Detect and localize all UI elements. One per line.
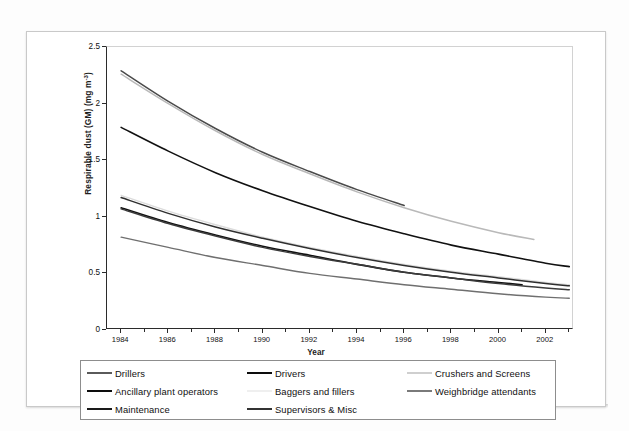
series-line xyxy=(121,127,569,266)
x-tick-mark-minor xyxy=(144,329,145,332)
x-tick-mark-minor xyxy=(238,329,239,332)
x-tick-mark-minor xyxy=(568,329,569,332)
y-tick-label: 1 xyxy=(74,211,100,220)
x-tick-mark-major xyxy=(545,329,546,333)
legend-label: Drillers xyxy=(115,368,145,379)
legend-swatch xyxy=(247,372,272,374)
series-line xyxy=(121,195,569,284)
x-tick-label: 1994 xyxy=(348,335,365,344)
x-tick-mark-major xyxy=(356,329,357,333)
legend-swatch xyxy=(247,408,272,410)
legend-label: Drivers xyxy=(275,368,305,379)
legend-swatch xyxy=(87,390,112,392)
legend-item: Maintenance xyxy=(87,401,247,417)
series-line xyxy=(121,198,569,286)
x-tick-mark-minor xyxy=(521,329,522,332)
x-tick-mark-minor xyxy=(332,329,333,332)
y-tick-label: 0.5 xyxy=(74,268,100,277)
x-tick-mark-minor xyxy=(474,329,475,332)
x-tick-mark-minor xyxy=(380,329,381,332)
x-tick-mark-major xyxy=(450,329,451,333)
x-tick-mark-major xyxy=(262,329,263,333)
x-tick-mark-minor xyxy=(427,329,428,332)
legend-label: Ancillary plant operators xyxy=(115,386,218,397)
x-tick-label: 1996 xyxy=(395,335,412,344)
x-axis-label: Year xyxy=(27,348,605,357)
y-axis-label: Respirable dust (GM) (mg m-3) xyxy=(83,38,94,228)
y-tick-mark xyxy=(102,329,106,330)
y-tick-label: 0 xyxy=(74,325,100,334)
x-tick-label: 1984 xyxy=(112,335,129,344)
series-line xyxy=(121,71,404,206)
legend-item: Baggers and fillers xyxy=(247,383,407,399)
x-tick-mark-minor xyxy=(285,329,286,332)
chart-area: Respirable dust (GM) (mg m-3) 00.511.522… xyxy=(27,32,605,362)
x-tick-label: 1986 xyxy=(159,335,176,344)
legend-label: Weighbridge attendants xyxy=(435,386,536,397)
legend-label: Supervisors & Misc xyxy=(275,404,357,415)
legend-swatch xyxy=(407,372,432,374)
legend-swatch xyxy=(87,372,112,374)
y-axis-label-exponent: -3 xyxy=(83,75,89,81)
figure-card: Respirable dust (GM) (mg m-3) 00.511.522… xyxy=(26,31,606,407)
x-tick-label: 1992 xyxy=(300,335,317,344)
legend-label: Baggers and fillers xyxy=(275,386,355,397)
x-tick-mark-major xyxy=(120,329,121,333)
legend-item: Supervisors & Misc xyxy=(247,401,407,417)
x-tick-label: 1988 xyxy=(206,335,223,344)
legend-item: Ancillary plant operators xyxy=(87,383,247,399)
x-tick-mark-major xyxy=(403,329,404,333)
x-tick-mark-major xyxy=(214,329,215,333)
x-tick-label: 1990 xyxy=(253,335,270,344)
legend-item: Drillers xyxy=(87,365,247,381)
legend-item: Weighbridge attendants xyxy=(407,383,557,399)
screenshot-root: Respirable dust (GM) (mg m-3) 00.511.522… xyxy=(0,0,629,431)
legend-label: Maintenance xyxy=(115,404,170,415)
y-tick-label: 2 xyxy=(74,98,100,107)
legend-swatch xyxy=(247,390,272,392)
legend-swatch xyxy=(87,408,112,410)
chart-legend: DrillersDriversCrushers and ScreensAncil… xyxy=(80,360,556,420)
legend-label: Crushers and Screens xyxy=(435,368,530,379)
y-tick-label: 1.5 xyxy=(74,155,100,164)
x-tick-label: 2000 xyxy=(489,335,506,344)
x-tick-mark-minor xyxy=(191,329,192,332)
y-axis-label-suffix: ) xyxy=(83,72,93,75)
x-tick-mark-major xyxy=(309,329,310,333)
y-tick-label: 2.5 xyxy=(74,42,100,51)
legend-item: Crushers and Screens xyxy=(407,365,557,381)
legend-item: Drivers xyxy=(247,365,407,381)
legend-grid: DrillersDriversCrushers and ScreensAncil… xyxy=(87,365,549,417)
series-line xyxy=(121,74,534,239)
legend-swatch xyxy=(407,390,432,392)
series-line xyxy=(121,237,569,298)
series-lines xyxy=(107,47,574,330)
x-tick-mark-major xyxy=(167,329,168,333)
x-tick-label: 1998 xyxy=(442,335,459,344)
x-tick-label: 2002 xyxy=(536,335,553,344)
plot-frame xyxy=(106,46,573,329)
x-tick-mark-major xyxy=(498,329,499,333)
